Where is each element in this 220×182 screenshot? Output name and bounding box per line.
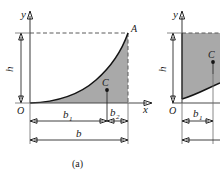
- panel-a-shaded-area: [30, 33, 128, 103]
- panel-a-b1-subscript: 1: [69, 115, 73, 123]
- panel-a-caption: (a): [72, 158, 83, 170]
- panel-a-group: y x O A h C b 1: [3, 8, 152, 170]
- panel-b-shaded-area: [182, 33, 220, 99]
- panel-a-height-label: h: [3, 66, 15, 72]
- panel-a-x-axis-label: x: [142, 103, 148, 115]
- diagram-svg: y x O A h C b 1: [0, 0, 220, 182]
- panel-a-centroid-dot: [105, 88, 109, 92]
- panel-a-b-total-label: b: [76, 127, 82, 139]
- panel-a-centroid-label: C: [102, 77, 109, 88]
- panel-b-group: y O h C b 1: [156, 8, 220, 144]
- panel-a-b2-subscript: 2: [116, 113, 120, 121]
- panel-b-centroid-dot: [211, 60, 215, 64]
- panel-a-origin-label: O: [17, 105, 24, 116]
- panel-b-y-axis-label: y: [172, 8, 178, 20]
- panel-b-centroid-label: C: [208, 49, 215, 60]
- panel-a-y-axis-label: y: [20, 8, 26, 20]
- panel-a-vertex-label: A: [130, 23, 138, 34]
- panel-b-origin-label: O: [169, 105, 176, 116]
- panel-b-height-label: h: [156, 66, 168, 72]
- figure-container: y x O A h C b 1: [0, 0, 220, 182]
- panel-b-b1-subscript: 1: [199, 114, 203, 122]
